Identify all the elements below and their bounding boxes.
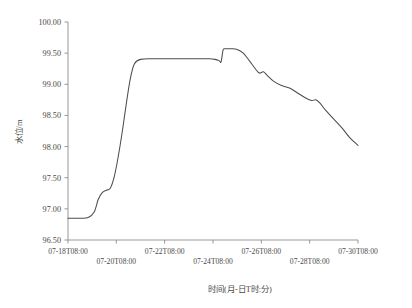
y-tick-label: 96.50 [43,236,61,245]
y-axis-title: 水位/m [14,119,24,144]
y-tick-label: 97.00 [43,205,61,214]
y-tick-label: 99.50 [43,49,61,58]
y-tick-label: 99.00 [43,80,61,89]
x-tick-label: 07-28T08:00 [290,257,330,266]
y-axis-ticks: 96.5097.0097.5098.0098.5099.0099.50100.0… [38,18,68,245]
x-tick-label: 07-24T08:00 [193,257,233,266]
x-axis-title: 时间(月-日T时:分) [208,284,272,294]
series-line-water-level [68,49,358,219]
x-tick-label: 07-18T08:00 [48,247,88,256]
series-group [68,49,358,219]
x-tick-label: 07-30T08:00 [338,247,378,256]
x-tick-label: 07-26T08:00 [242,247,282,256]
y-tick-label: 98.50 [43,111,61,120]
x-tick-label: 07-20T08:00 [97,257,137,266]
water-level-chart: 96.5097.0097.5098.0098.5099.0099.50100.0… [0,0,412,308]
y-tick-label: 98.00 [43,143,61,152]
y-tick-label: 100.00 [38,18,61,27]
y-tick-label: 97.50 [43,174,61,183]
chart-canvas: 96.5097.0097.5098.0098.5099.0099.50100.0… [0,0,412,308]
x-tick-label: 07-22T08:00 [145,247,185,256]
x-axis-ticks: 07-18T08:0007-20T08:0007-22T08:0007-24T0… [48,240,378,266]
